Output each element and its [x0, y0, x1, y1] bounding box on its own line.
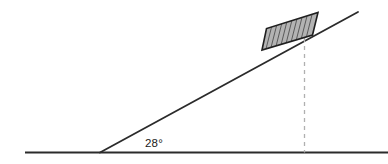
inclined-plane-figure: 28° [0, 0, 388, 164]
diagram-canvas: 28° [0, 0, 388, 164]
angle-label: 28° [145, 137, 163, 149]
incline-surface-line [100, 12, 358, 153]
hatched-block [262, 13, 318, 51]
